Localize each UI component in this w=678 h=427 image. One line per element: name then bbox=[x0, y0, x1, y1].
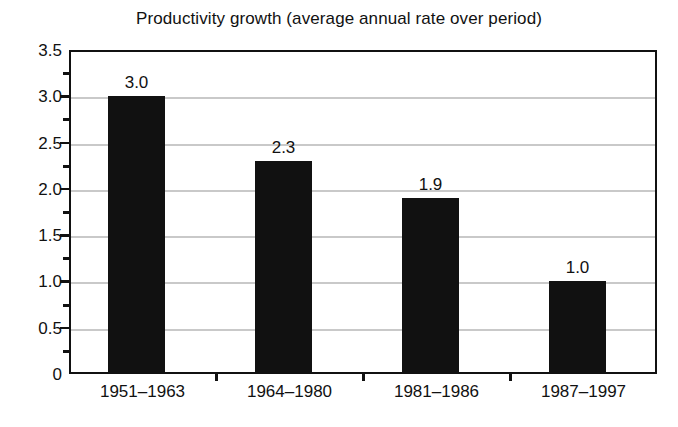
x-axis-tick-label: 1964–1980 bbox=[216, 382, 363, 402]
x-axis-tick-label: 1981–1986 bbox=[363, 382, 510, 402]
x-axis-tick-label: 1987–1997 bbox=[510, 382, 657, 402]
x-axis-tick-label: 1951–1963 bbox=[69, 382, 216, 402]
chart-title: Productivity growth (average annual rate… bbox=[0, 9, 678, 29]
y-axis-tick-label: 0 bbox=[4, 366, 62, 383]
bar-value-label: 2.3 bbox=[235, 139, 332, 156]
y-axis-tick-label: 2.0 bbox=[4, 181, 62, 198]
x-axis-tick-mark bbox=[362, 374, 365, 381]
y-axis-tick-label: 2.5 bbox=[4, 135, 62, 152]
bar bbox=[402, 198, 459, 374]
x-axis-tick-mark bbox=[509, 374, 512, 381]
y-axis-tick-label: 0.5 bbox=[4, 320, 62, 337]
y-axis-tick-label: 3.0 bbox=[4, 88, 62, 105]
bars-layer bbox=[69, 50, 657, 374]
bar bbox=[255, 161, 312, 374]
y-axis-tick-label: 1.5 bbox=[4, 227, 62, 244]
bar-value-label: 1.9 bbox=[382, 176, 479, 193]
y-axis-tick-label: 1.0 bbox=[4, 273, 62, 290]
bar bbox=[108, 96, 165, 374]
chart-figure: Productivity growth (average annual rate… bbox=[0, 0, 678, 427]
x-axis-tick-mark bbox=[215, 374, 218, 381]
bar-value-label: 1.0 bbox=[529, 259, 626, 276]
y-axis-labels: 00.51.01.52.02.53.03.5 bbox=[0, 0, 62, 427]
bar bbox=[549, 281, 606, 374]
y-axis-tick-label: 3.5 bbox=[4, 42, 62, 59]
bar-value-label: 3.0 bbox=[88, 74, 185, 91]
